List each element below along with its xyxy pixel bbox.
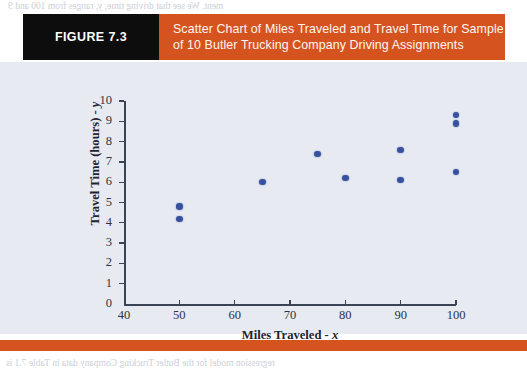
data-point bbox=[453, 169, 459, 175]
y-tick-mark bbox=[119, 161, 124, 162]
x-tick-label: 60 bbox=[220, 308, 250, 323]
data-point bbox=[176, 203, 182, 209]
x-tick-label: 100 bbox=[441, 308, 471, 323]
x-tick-label: 50 bbox=[164, 308, 194, 323]
data-point bbox=[314, 151, 320, 157]
y-tick-mark bbox=[119, 182, 124, 183]
y-tick-mark bbox=[119, 100, 124, 101]
figure-title-line-1: Scatter Chart of Miles Traveled and Trav… bbox=[173, 22, 504, 36]
y-tick-mark bbox=[119, 121, 124, 122]
y-tick-mark bbox=[119, 283, 124, 284]
x-tick-mark bbox=[455, 300, 456, 305]
y-axis-line bbox=[124, 101, 126, 306]
figure-page: ment. We see that driving time, y, range… bbox=[0, 0, 527, 373]
bleed-text-bottom: regression model for the Butler Trucking… bbox=[6, 357, 275, 370]
data-point bbox=[259, 179, 265, 185]
figure-number-box: FIGURE 7.3 bbox=[23, 14, 159, 60]
y-axis-title: Travel Time (hours) - y bbox=[88, 71, 103, 257]
figure-title-text: Scatter Chart of Miles Traveled and Trav… bbox=[173, 21, 504, 54]
x-tick-mark bbox=[400, 300, 401, 305]
data-point bbox=[176, 216, 182, 222]
footer-rule bbox=[0, 340, 527, 351]
data-point bbox=[453, 112, 459, 118]
x-tick-mark bbox=[345, 300, 346, 305]
figure-number-label: FIGURE 7.3 bbox=[55, 30, 127, 44]
y-tick-mark bbox=[119, 242, 124, 243]
y-tick-mark bbox=[119, 202, 124, 203]
y-tick-label: 1 bbox=[90, 276, 112, 291]
figure-title-line-2: of 10 Butler Trucking Company Driving As… bbox=[173, 38, 464, 52]
scatter-plot: 012345678910 405060708090100 Travel Time… bbox=[64, 78, 484, 322]
bleed-text-top: ment. We see that driving time, y, range… bbox=[8, 0, 223, 13]
x-tick-label: 40 bbox=[109, 308, 139, 323]
data-point bbox=[453, 120, 459, 126]
x-tick-mark bbox=[179, 300, 180, 305]
y-tick-mark bbox=[119, 222, 124, 223]
x-tick-label: 90 bbox=[386, 308, 416, 323]
x-tick-label: 70 bbox=[275, 308, 305, 323]
x-tick-mark bbox=[289, 300, 290, 305]
y-axis-title-text: Travel Time (hours) - y bbox=[88, 102, 102, 226]
chart-panel: 012345678910 405060708090100 Travel Time… bbox=[0, 62, 527, 334]
data-point bbox=[397, 147, 403, 153]
figure-banner: FIGURE 7.3 Scatter Chart of Miles Travel… bbox=[23, 14, 505, 60]
y-tick-label: 2 bbox=[90, 255, 112, 270]
y-tick-mark bbox=[119, 141, 124, 142]
y-tick-mark bbox=[119, 263, 124, 264]
x-tick-label: 80 bbox=[330, 308, 360, 323]
data-point bbox=[397, 177, 403, 183]
data-point bbox=[342, 175, 348, 181]
figure-title-box: Scatter Chart of Miles Traveled and Trav… bbox=[159, 14, 505, 60]
x-tick-mark bbox=[234, 300, 235, 305]
